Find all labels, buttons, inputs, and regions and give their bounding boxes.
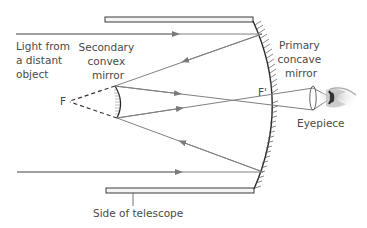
- virtual-rays: [70, 86, 117, 118]
- label-light-source: Light from a distant object: [16, 40, 73, 80]
- label-eyepiece: Eyepiece: [297, 117, 345, 129]
- telescope-diagram: Light from a distant object Secondary co…: [0, 0, 367, 228]
- label-focus-f: F: [60, 95, 66, 107]
- eyepiece-lens: [310, 86, 316, 110]
- label-secondary-mirror: Secondary convex mirror: [79, 41, 138, 81]
- tube-side-bottom: [106, 188, 254, 193]
- eye-icon: [320, 85, 360, 109]
- label-focus-f-prime: F': [258, 86, 267, 98]
- tube-side-top: [105, 17, 253, 22]
- label-tube-side: Side of telescope: [93, 207, 183, 219]
- label-primary-mirror: Primary concave mirror: [277, 39, 324, 79]
- secondary-mirror: [114, 86, 121, 118]
